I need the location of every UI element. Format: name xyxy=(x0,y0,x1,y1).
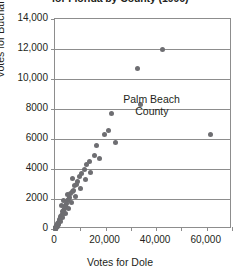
y-tick xyxy=(51,169,55,170)
data-point xyxy=(113,140,118,145)
data-point xyxy=(106,128,111,133)
y-tick-label: 6000 xyxy=(0,132,48,143)
data-point xyxy=(65,192,70,197)
x-tick xyxy=(131,227,132,231)
data-point xyxy=(83,177,88,182)
x-tick xyxy=(232,227,233,231)
y-tick xyxy=(51,19,55,20)
y-tick xyxy=(51,49,55,50)
data-point xyxy=(135,66,140,71)
x-tick xyxy=(80,227,81,231)
y-tick xyxy=(51,139,55,140)
x-tick xyxy=(106,227,107,231)
gridline xyxy=(55,49,230,50)
y-tick-label: 4000 xyxy=(0,162,48,173)
y-tick-label: 8000 xyxy=(0,102,48,113)
scatter-chart: for Florida by County (1996) Votes for B… xyxy=(0,0,240,272)
y-tick xyxy=(51,79,55,80)
y-tick-label: 12,000 xyxy=(0,42,48,53)
data-point xyxy=(73,194,78,199)
data-point xyxy=(92,153,97,158)
data-point xyxy=(160,47,165,52)
y-tick xyxy=(51,109,55,110)
x-tick-label: 40,000 xyxy=(140,234,171,245)
x-tick-label: 20,000 xyxy=(89,234,120,245)
data-point xyxy=(70,176,75,181)
gridline xyxy=(55,139,230,140)
y-tick-label: 10,000 xyxy=(0,72,48,83)
data-point xyxy=(208,132,213,137)
x-tick-label: 0 xyxy=(51,234,57,245)
x-tick xyxy=(156,227,157,231)
data-point xyxy=(61,198,66,203)
y-tick-label: 2000 xyxy=(0,192,48,203)
y-tick-label: 0 xyxy=(0,222,48,233)
chart-title: for Florida by County (1996) xyxy=(0,0,240,4)
annotation-line-2: County xyxy=(135,105,168,117)
data-point xyxy=(53,226,58,231)
x-axis-title: Votes for Dole xyxy=(0,256,240,268)
x-tick xyxy=(207,227,208,231)
gridline xyxy=(55,199,230,200)
data-point xyxy=(97,156,102,161)
data-point xyxy=(94,143,99,148)
plot-area: Palm BeachCounty xyxy=(54,18,231,228)
data-point xyxy=(78,186,83,191)
data-point xyxy=(109,111,114,116)
data-point xyxy=(102,132,107,137)
annotation-line-1: Palm Beach xyxy=(123,93,180,105)
data-point xyxy=(69,200,74,205)
y-tick xyxy=(51,199,55,200)
data-point xyxy=(88,170,93,175)
y-tick-label: 14,000 xyxy=(0,12,48,23)
x-tick-label: 60,000 xyxy=(190,234,221,245)
gridline xyxy=(55,79,230,80)
x-tick xyxy=(181,227,182,231)
